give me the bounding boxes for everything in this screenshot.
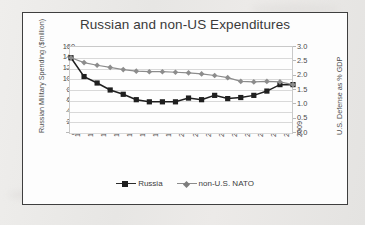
series-marker	[147, 99, 152, 104]
series-marker	[121, 92, 126, 97]
y-axis-right-tick-mark	[293, 118, 296, 119]
series-marker	[212, 93, 217, 98]
series-line	[71, 58, 293, 102]
series-marker	[94, 62, 100, 68]
series-marker	[212, 73, 218, 79]
series-marker	[133, 68, 139, 74]
y-axis-right-tick-label: 1.5	[297, 86, 323, 93]
chart-title: Russian and non-US Expenditures	[23, 17, 347, 32]
series-marker	[134, 97, 139, 102]
series-marker	[173, 69, 179, 75]
chart-frame: Russian and non-US Expenditures Russian …	[22, 12, 348, 205]
legend-marker-square-icon	[122, 181, 128, 187]
series-marker	[186, 70, 192, 76]
series-marker	[186, 95, 191, 100]
y-axis-right-tick-mark	[293, 75, 296, 76]
y-axis-right-tick-label: 3.0	[297, 43, 323, 50]
series-marker	[238, 95, 243, 100]
series-layer	[70, 47, 292, 133]
series-marker	[160, 99, 165, 104]
series-line	[71, 58, 293, 85]
series-marker	[120, 67, 126, 73]
x-axis-tick-label: 2009	[295, 121, 304, 137]
series-marker	[147, 69, 153, 75]
legend-swatch	[116, 183, 136, 184]
series-marker	[160, 69, 166, 75]
series-marker	[173, 99, 178, 104]
legend-label: non-U.S. NATO	[199, 179, 254, 188]
series-marker	[264, 88, 269, 93]
series-marker	[95, 80, 100, 85]
y-axis-right-tick-mark	[293, 89, 296, 90]
series-marker	[199, 71, 205, 77]
legend-item[interactable]: non-U.S. NATO	[177, 179, 254, 188]
series-marker	[251, 93, 256, 98]
legend-marker-diamond-icon	[183, 180, 190, 187]
screenshot-root: Russian and non-US Expenditures Russian …	[0, 0, 365, 225]
legend-item[interactable]: Russia	[116, 179, 162, 188]
y-axis-right-tick-mark	[293, 60, 296, 61]
series-marker	[225, 75, 231, 81]
series-marker	[81, 74, 86, 79]
series-marker	[107, 65, 113, 71]
series-marker	[199, 97, 204, 102]
y-axis-right-tick-mark	[293, 46, 296, 47]
legend-swatch	[177, 183, 197, 184]
series-marker	[108, 87, 113, 92]
series-marker	[238, 79, 244, 85]
series-marker	[251, 79, 257, 85]
legend-label: Russia	[138, 179, 162, 188]
gridline	[70, 133, 292, 134]
plot-area	[69, 46, 293, 134]
series-marker	[225, 96, 230, 101]
chart-legend: Russianon-U.S. NATO	[23, 179, 347, 188]
series-marker	[81, 60, 87, 66]
y-axis-right-tick-mark	[293, 103, 296, 104]
y-axis-right-tick-label: 2.5	[297, 57, 323, 64]
y-axis-right-tick-label: 1.0	[297, 100, 323, 107]
series-marker	[264, 79, 270, 85]
y-axis-right-tick-label: 2.0	[297, 71, 323, 78]
y-axis-right-title: U.S. Defense as % GDP	[335, 57, 344, 135]
